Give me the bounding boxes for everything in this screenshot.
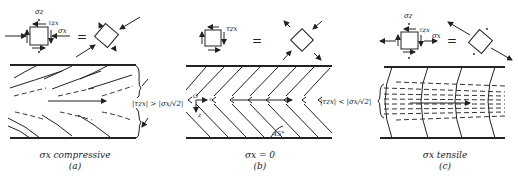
sigma-z-label: σz — [404, 12, 413, 20]
equals-sign: = — [77, 30, 87, 44]
rotated-element-c — [448, 22, 512, 60]
tau-label: τzx — [226, 25, 238, 33]
letter-c: (c) — [405, 161, 485, 171]
panel-b: τzx = — [186, 21, 332, 138]
angle-label: 45° — [272, 130, 285, 138]
condition-a: |τzx| > |σx/√2| — [132, 100, 183, 108]
tau-label: τzx — [419, 26, 430, 34]
origin-label: O — [193, 92, 198, 99]
plate-b — [186, 66, 332, 138]
condition-c: |τzx| < |σx/√2| — [320, 98, 371, 106]
equals-sign: = — [447, 34, 457, 48]
panel-a: σz τzx σx = — [5, 8, 183, 138]
caption-b: σx = 0 — [220, 150, 300, 160]
x-axis-label: x — [209, 96, 213, 102]
sigma-z-label: σz — [35, 8, 44, 16]
z-axis-label: z — [197, 111, 202, 118]
element-square-b — [202, 27, 224, 50]
sigma-x-label: σx — [58, 27, 67, 35]
panel-c: σz τzx σx = — [320, 12, 512, 138]
element-square-a — [5, 19, 70, 53]
tau-label: τzx — [48, 19, 59, 27]
caption-a: σx compressive — [35, 150, 115, 160]
sigma-x-label: σx — [432, 32, 441, 40]
plate-c — [378, 67, 505, 138]
equals-sign: = — [252, 34, 262, 48]
letter-a: (a) — [35, 161, 115, 171]
rotated-element-b — [283, 21, 322, 60]
caption-c: σx tensile — [405, 150, 485, 160]
plate-a — [8, 65, 148, 138]
letter-b: (b) — [220, 161, 300, 171]
